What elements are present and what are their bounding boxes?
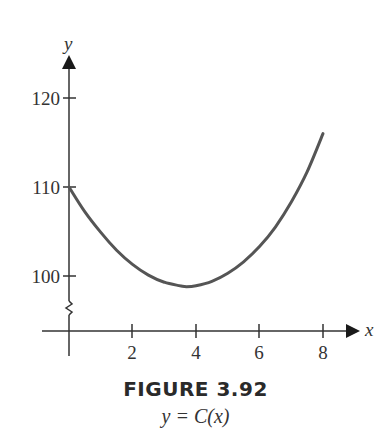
x-tick-label-2: 2	[127, 342, 137, 363]
cost-curve	[69, 134, 323, 287]
x-tick-label-6: 6	[254, 342, 264, 363]
y-tick-label-110: 110	[32, 177, 60, 198]
x-axis-label: x	[364, 319, 374, 340]
y-tick-label-120: 120	[32, 88, 61, 109]
figure-title: FIGURE 3.92	[0, 377, 391, 401]
x-tick-label-4: 4	[191, 342, 201, 363]
figure-subtitle: y = C(x)	[0, 405, 391, 428]
y-axis	[66, 66, 72, 356]
x-tick-label-8: 8	[318, 342, 328, 363]
x-axis-arrow-icon	[346, 324, 360, 338]
y-tick-label-100: 100	[32, 266, 61, 287]
y-axis-arrow-icon	[62, 55, 76, 69]
y-axis-label: y	[62, 33, 73, 54]
chart: y 120 110 100 x 2 4 6 8	[0, 0, 391, 370]
